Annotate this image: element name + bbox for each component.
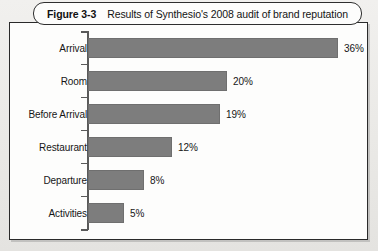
bar-row: Room 20% — [10, 64, 369, 97]
category-label: Restaurant — [39, 141, 87, 152]
axis-cap-bottom — [81, 229, 88, 231]
value-label: 12% — [178, 141, 198, 152]
value-label: 36% — [344, 42, 364, 53]
bar-departure — [88, 170, 144, 190]
figure-number: Figure 3-3 — [47, 8, 96, 20]
category-label: Departure — [43, 174, 87, 185]
bar-activities — [88, 203, 124, 223]
bar-restaurant — [88, 137, 172, 157]
value-label: 20% — [233, 75, 253, 86]
bar-row: Departure 8% — [10, 163, 369, 196]
bar-row: Arrival 36% — [10, 31, 369, 64]
bar-chart-plot-area: Arrival 36% Room 20% Before Arrival 19% … — [10, 23, 369, 238]
bar-before-arrival — [88, 104, 220, 124]
figure-frame: Arrival 36% Room 20% Before Arrival 19% … — [9, 22, 368, 240]
value-label: 19% — [226, 108, 246, 119]
page-title: Results of Synthesio's 2008 audit of bra… — [107, 8, 348, 20]
bar-arrival — [88, 38, 338, 58]
bar-row: Before Arrival 19% — [10, 97, 369, 130]
figure-caption-tab: Figure 3-3 Results of Synthesio's 2008 a… — [33, 2, 362, 25]
category-label: Activities — [49, 207, 87, 218]
value-label: 8% — [150, 174, 164, 185]
category-label: Room — [61, 75, 87, 86]
bar-room — [88, 71, 227, 91]
bar-row: Restaurant 12% — [10, 130, 369, 163]
bar-row: Activities 5% — [10, 196, 369, 229]
value-label: 5% — [130, 207, 144, 218]
category-label: Before Arrival — [28, 108, 87, 119]
category-label: Arrival — [59, 42, 87, 53]
